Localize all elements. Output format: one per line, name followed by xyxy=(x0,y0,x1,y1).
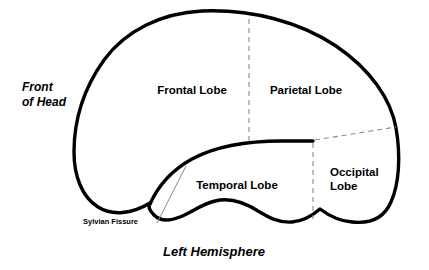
brain-diagram-svg: Frontal Lobe Parietal Lobe Temporal Lobe… xyxy=(0,0,429,270)
label-parietal-lobe: Parietal Lobe xyxy=(270,84,342,96)
label-front-of-head-line1: Front xyxy=(22,80,54,94)
brain-lobes-diagram: Frontal Lobe Parietal Lobe Temporal Lobe… xyxy=(0,0,429,270)
label-front-of-head-line2: of Head xyxy=(22,95,67,109)
diagram-caption: Left Hemisphere xyxy=(163,244,265,259)
label-sylvian-fissure: Sylvian Fissure xyxy=(83,217,138,226)
label-frontal-lobe: Frontal Lobe xyxy=(157,84,227,96)
label-occipital-lobe-line1: Occipital xyxy=(330,166,379,178)
label-temporal-lobe: Temporal Lobe xyxy=(196,179,278,191)
label-occipital-lobe-line2: Lobe xyxy=(330,180,357,192)
